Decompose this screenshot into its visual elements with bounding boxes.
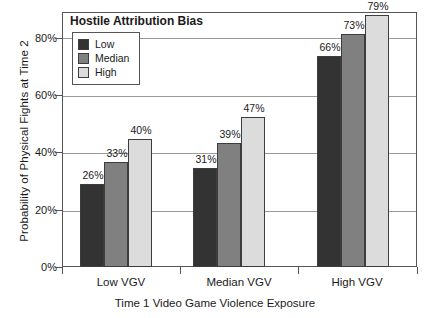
x-tick-label-median-vgv: Median VGV [179,276,299,288]
bar-value-label: 40% [119,124,163,136]
bar-value-label: 79% [356,0,400,12]
legend-item-high[interactable]: High [78,66,129,79]
bar-low-vgv-high[interactable]: 40% [128,139,152,267]
bar-chart: Probability of Physical Fights at Time 2… [0,0,430,318]
y-tick-label-0: 0% [17,261,57,273]
y-tick-label-20: 20% [17,204,57,216]
bar-median-vgv-high[interactable]: 47% [241,117,265,267]
x-tick-label-high-vgv: High VGV [297,276,417,288]
y-axis-title: Probability of Physical Fights at Time 2 [18,31,30,251]
legend-label: Median [95,53,129,64]
bar-low-vgv-median[interactable]: 33% [104,162,128,267]
x-axis-title: Time 1 Video Game Violence Exposure [0,297,430,309]
y-tick-label-60: 60% [17,89,57,101]
bar-median-vgv-median[interactable]: 39% [217,143,241,267]
x-tick-mark-1 [180,267,181,274]
x-tick-mark-left [62,267,63,274]
legend: Low Median High [72,32,140,85]
bar-value-label: 47% [232,102,276,114]
y-tick-mark-40 [55,152,62,153]
legend-swatch-icon [78,67,89,78]
y-tick-mark-80 [55,38,62,39]
x-tick-mark-right [417,267,418,274]
bar-high-vgv-median[interactable]: 73% [341,34,365,267]
bar-high-vgv-low[interactable]: 66% [317,56,341,267]
x-tick-mark-2 [298,267,299,274]
bar-median-vgv-low[interactable]: 31% [193,168,217,267]
y-tick-mark-0 [55,267,62,268]
chart-title: Hostile Attribution Bias [70,14,203,28]
y-tick-label-80: 80% [17,32,57,44]
legend-label: Low [95,39,114,50]
legend-label: High [95,67,117,78]
legend-swatch-icon [78,53,89,64]
legend-swatch-icon [78,39,89,50]
bar-group-high-vgv: 66% 73% 79% [317,12,407,267]
y-tick-mark-60 [55,95,62,96]
bar-low-vgv-low[interactable]: 26% [80,184,104,267]
y-tick-mark-20 [55,210,62,211]
legend-item-low[interactable]: Low [78,38,129,51]
legend-item-median[interactable]: Median [78,52,129,65]
bar-group-median-vgv: 31% 39% 47% [193,12,283,267]
y-tick-label-40: 40% [17,146,57,158]
bar-high-vgv-high[interactable]: 79% [365,15,389,267]
x-tick-label-low-vgv: Low VGV [61,276,181,288]
